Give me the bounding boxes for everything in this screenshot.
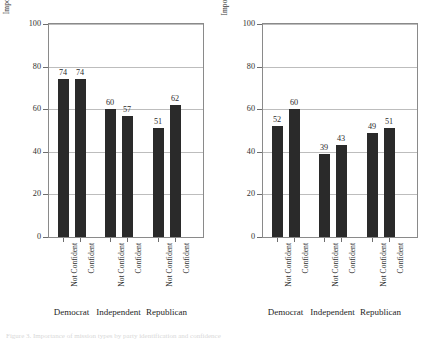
x-axis-category-label: Not Confident — [283, 243, 294, 305]
y-axis-label: 40 — [226, 147, 255, 156]
bar-value-label: 74 — [69, 68, 91, 77]
y-axis-label: 0 — [226, 232, 255, 241]
chart-panel-civil-war: Importance of Civil War Intervention Mis… — [213, 0, 426, 340]
x-axis-tick — [110, 238, 111, 242]
x-axis-tick — [175, 238, 176, 242]
y-axis-label: 100 — [226, 19, 255, 28]
y-axis-label: 100 — [12, 19, 41, 28]
x-axis-tick — [341, 238, 342, 242]
figure-caption: Figure 3. Importance of mission types by… — [6, 332, 420, 339]
bar — [367, 133, 378, 237]
x-axis-category-label: Not Confident — [330, 243, 341, 305]
y-axis-tick — [257, 194, 262, 195]
bar — [75, 79, 86, 237]
y-axis-tick — [43, 24, 48, 25]
bar-value-label: 52 — [266, 115, 288, 124]
gridline — [263, 67, 417, 68]
y-axis-label: 60 — [12, 104, 41, 113]
bar — [289, 109, 300, 237]
y-axis-tick — [43, 194, 48, 195]
x-axis-group-label: Republican — [341, 307, 421, 318]
x-axis-tick — [127, 238, 128, 242]
bar-value-label: 51 — [378, 117, 400, 126]
y-axis-tick — [43, 152, 48, 153]
bar — [336, 145, 347, 237]
bar — [384, 128, 395, 237]
bar-value-label: 62 — [164, 94, 186, 103]
bar — [272, 126, 283, 237]
x-axis-tick — [294, 238, 295, 242]
bar — [58, 79, 69, 237]
x-axis-category-label: Confident — [181, 243, 192, 305]
x-axis-category-label: Confident — [133, 243, 144, 305]
y-axis-tick — [257, 109, 262, 110]
gridline — [263, 109, 417, 110]
bar-value-label: 43 — [330, 134, 352, 143]
y-axis-label: 60 — [226, 104, 255, 113]
x-axis-category-label: Confident — [347, 243, 358, 305]
x-axis-tick — [324, 238, 325, 242]
gridline — [263, 24, 417, 25]
bar-value-label: 60 — [283, 98, 305, 107]
y-axis-tick — [43, 109, 48, 110]
y-axis-label: 40 — [12, 147, 41, 156]
bar — [170, 105, 181, 237]
y-axis-label: 0 — [12, 232, 41, 241]
y-axis-tick — [43, 67, 48, 68]
bar — [105, 109, 116, 237]
y-axis-tick — [257, 67, 262, 68]
bar — [319, 154, 330, 237]
x-axis-tick — [80, 238, 81, 242]
x-axis-category-label: Not Confident — [378, 243, 389, 305]
gridline — [49, 24, 203, 25]
bar — [122, 116, 133, 237]
y-axis-label: 20 — [12, 189, 41, 198]
y-axis-label: 80 — [226, 62, 255, 71]
x-axis-category-label: Not Confident — [116, 243, 127, 305]
bar-value-label: 57 — [116, 105, 138, 114]
y-axis-label: 80 — [12, 62, 41, 71]
x-axis-tick — [63, 238, 64, 242]
y-axis-tick — [257, 152, 262, 153]
chart-panel-humanitarian: Importance of Humanitarian Missions Abro… — [0, 0, 213, 340]
bar-value-label: 39 — [313, 143, 335, 152]
x-axis-category-label: Confident — [300, 243, 311, 305]
y-axis-label: 20 — [226, 189, 255, 198]
figure: Importance of Humanitarian Missions Abro… — [0, 0, 426, 340]
y-axis-tick — [43, 237, 48, 238]
x-axis-tick — [372, 238, 373, 242]
x-axis-category-label: Not Confident — [69, 243, 80, 305]
x-axis-tick — [389, 238, 390, 242]
x-axis-category-label: Not Confident — [164, 243, 175, 305]
x-axis-category-label: Confident — [86, 243, 97, 305]
x-axis-group-label: Republican — [127, 307, 207, 318]
x-axis-tick — [277, 238, 278, 242]
bar-value-label: 51 — [147, 117, 169, 126]
y-axis-tick — [257, 24, 262, 25]
x-axis-tick — [158, 238, 159, 242]
y-axis-tick — [257, 237, 262, 238]
x-axis-category-label: Confident — [395, 243, 406, 305]
bar — [153, 128, 164, 237]
